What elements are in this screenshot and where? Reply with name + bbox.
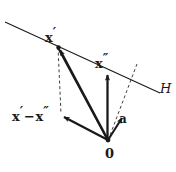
label-diff-first-mark: ′ (20, 104, 24, 119)
label-x-double-prime-base: x (95, 56, 103, 71)
projection-dashed-line (58, 47, 61, 114)
label-x-prime-mark: ′ (53, 25, 57, 40)
hyperplane-line (5, 22, 160, 93)
label-diff-first-base: x (12, 109, 20, 124)
label-diff-minus: − (24, 109, 36, 124)
figure-canvas (0, 0, 176, 172)
label-hyperplane-h: H (160, 82, 171, 95)
label-diff-second-mark: ″ (43, 104, 49, 119)
x-prime-point (56, 45, 60, 49)
label-x-prime: x′ (45, 27, 57, 44)
normal-dashed-line (109, 64, 137, 138)
label-x-double-prime: x″ (95, 53, 109, 70)
label-x-prime-minus-x-double-prime: x′−x″ (12, 106, 49, 123)
label-x-double-prime-mark: ″ (103, 51, 109, 66)
origin-point (106, 138, 111, 143)
vector-decomposition-figure: x′ x″ x′−x″ a 0 H (0, 0, 176, 172)
label-vector-a: a (119, 113, 127, 125)
label-x-prime-base: x (45, 30, 53, 45)
label-origin: 0 (105, 147, 114, 160)
